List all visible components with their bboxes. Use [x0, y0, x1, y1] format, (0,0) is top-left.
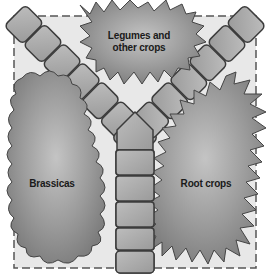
path-stem-overlay — [116, 150, 154, 273]
garden-diagram: Legumes and other crops Brassicas Root c… — [0, 0, 273, 280]
legumes-label-line2: other crops — [100, 42, 178, 54]
legumes-label: Legumes and other crops — [100, 30, 178, 54]
brassicas-label: Brassicas — [20, 178, 84, 190]
legumes-label-line1: Legumes and — [100, 30, 178, 42]
root-crops-label: Root crops — [168, 178, 244, 190]
